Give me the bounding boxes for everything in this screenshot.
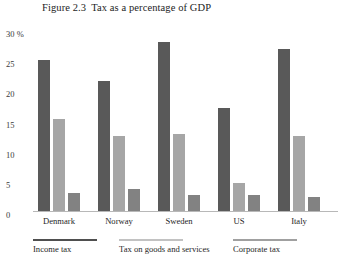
- figure-title: Figure 2.3Tax as a percentage of GDP: [42, 2, 211, 13]
- plot-area: 30 %2520151050: [0, 24, 342, 216]
- bar-sweden-series-0: [158, 42, 170, 211]
- category-label-norway: Norway: [89, 216, 149, 226]
- y-axis-tick-5: 5: [6, 181, 36, 189]
- bar-sweden-series-2: [188, 195, 200, 211]
- bar-italy-series-1: [293, 136, 305, 211]
- legend-label-income-tax: Income tax: [33, 244, 97, 254]
- bar-group-denmark: [38, 29, 84, 211]
- figure-container: Figure 2.3Tax as a percentage of GDP 30 …: [0, 0, 342, 275]
- legend-item-income-tax: Income tax: [33, 239, 97, 254]
- legend-label-corporate-tax: Corporate tax: [233, 244, 297, 254]
- bar-denmark-series-2: [68, 193, 80, 211]
- bar-norway-series-2: [128, 189, 140, 211]
- x-axis-line: [33, 211, 338, 212]
- legend-swatch-goods-services-tax: [119, 239, 183, 241]
- category-label-sweden: Sweden: [149, 216, 209, 226]
- figure-number: Figure 2.3: [42, 2, 86, 13]
- legend-item-corporate-tax: Corporate tax: [233, 239, 297, 254]
- legend-swatch-corporate-tax: [233, 239, 297, 241]
- bar-norway-series-0: [98, 81, 110, 211]
- bar-denmark-series-1: [53, 119, 65, 211]
- bar-italy-series-0: [278, 49, 290, 211]
- legend-label-goods-services-tax: Tax on goods and services: [119, 244, 183, 254]
- bar-us-series-2: [248, 195, 260, 211]
- y-axis-tick-1: 25: [6, 60, 36, 68]
- bar-us-series-1: [233, 183, 245, 211]
- legend-item-goods-services-tax: Tax on goods and services: [119, 239, 183, 254]
- bar-us-series-0: [218, 108, 230, 211]
- category-label-italy: Italy: [269, 216, 329, 226]
- y-axis-tick-2: 20: [6, 90, 36, 98]
- bars-layer: [38, 24, 338, 216]
- y-axis-tick-0: 30 %: [6, 30, 36, 38]
- bar-norway-series-1: [113, 136, 125, 211]
- y-axis-tick-3: 15: [6, 121, 36, 129]
- bar-group-us: [218, 29, 264, 211]
- bar-group-norway: [98, 29, 144, 211]
- bar-denmark-series-0: [38, 60, 50, 211]
- bar-group-sweden: [158, 29, 204, 211]
- figure-title-text: Tax as a percentage of GDP: [91, 2, 211, 13]
- legend-swatch-income-tax: [33, 239, 97, 241]
- chart-legend: Income tax Tax on goods and services Cor…: [33, 239, 342, 261]
- x-axis-category-labels: DenmarkNorwaySwedenUSItaly: [38, 216, 338, 230]
- category-label-us: US: [209, 216, 269, 226]
- bar-group-italy: [278, 29, 324, 211]
- y-axis-tick-4: 10: [6, 151, 36, 159]
- bar-italy-series-2: [308, 197, 320, 211]
- bar-sweden-series-1: [173, 134, 185, 211]
- category-label-denmark: Denmark: [29, 216, 89, 226]
